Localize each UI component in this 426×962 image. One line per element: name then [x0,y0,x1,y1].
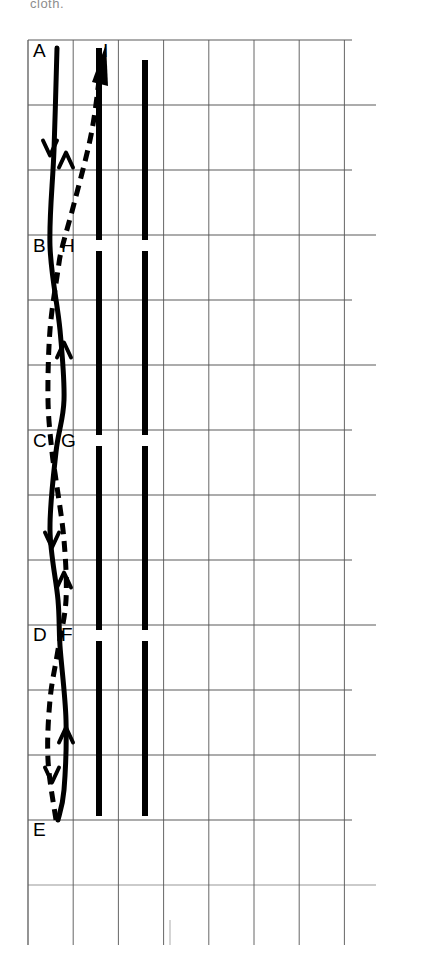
point-label-I: I [103,40,108,61]
thick-bar-left [96,251,102,435]
thick-bar-right [142,641,148,816]
thick-bar-right [142,60,148,240]
point-label-B: B [33,235,46,256]
diagram-figure: cloth. ABCDEFGHI [0,0,426,962]
point-label-F: F [61,624,73,645]
point-label-H: H [61,235,75,256]
point-label-D: D [33,624,47,645]
arrowhead-down-solid [45,768,59,783]
thick-bar-left [96,641,102,816]
arrowhead-up-dashed [59,153,73,168]
point-label-A: A [33,40,46,61]
thick-bar-left [96,446,102,630]
point-label-C: C [33,430,47,451]
point-label-G: G [61,430,76,451]
thick-bar-right [142,251,148,435]
point-label-E: E [33,819,46,840]
partial-caption-text: cloth. [30,0,230,14]
thick-bar-right [142,446,148,630]
diagram-canvas: ABCDEFGHI [0,0,426,962]
thick-bars-layer [96,48,148,816]
